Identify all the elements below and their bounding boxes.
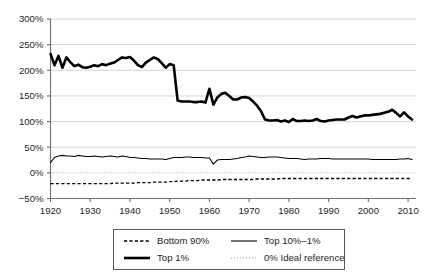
y-tick-label-50: 50% bbox=[24, 142, 44, 153]
x-tick-label-1990: 1990 bbox=[318, 205, 339, 216]
legend-label-zero-reference: 0% Ideal reference bbox=[264, 252, 345, 263]
legend-label-bottom90: Bottom 90% bbox=[157, 235, 210, 246]
x-tick-label-1980: 1980 bbox=[278, 205, 299, 216]
x-tick-label-1960: 1960 bbox=[199, 205, 220, 216]
x-tick-label-2000: 2000 bbox=[358, 205, 379, 216]
x-tick-label-2010: 2010 bbox=[397, 205, 418, 216]
x-tick-label-1930: 1930 bbox=[80, 205, 101, 216]
x-tick-label-1920: 1920 bbox=[40, 205, 61, 216]
legend-label-top10-1: Top 10%–1% bbox=[264, 235, 321, 246]
y-tick-label-300: 300% bbox=[19, 13, 44, 24]
y-tick-label-250: 250% bbox=[19, 39, 44, 50]
y-tick-label-150: 150% bbox=[19, 90, 44, 101]
chart-legend: Bottom 90% Top 1% Top 10%–1% 0% Ideal re… bbox=[114, 230, 345, 270]
y-tick-label-0: 0% bbox=[30, 167, 44, 178]
line-chart: −50%0%50%100%150%200%250%300% 1920193019… bbox=[0, 0, 428, 277]
x-tick-label-1970: 1970 bbox=[238, 205, 259, 216]
x-tick-label-1950: 1950 bbox=[159, 205, 180, 216]
legend-label-top1: Top 1% bbox=[157, 252, 189, 263]
y-tick-label--50: −50% bbox=[19, 193, 44, 204]
x-tick-label-1940: 1940 bbox=[119, 205, 140, 216]
chart-figure: −50%0%50%100%150%200%250%300% 1920193019… bbox=[0, 0, 428, 277]
y-tick-label-200: 200% bbox=[19, 65, 44, 76]
y-tick-label-100: 100% bbox=[19, 116, 44, 127]
